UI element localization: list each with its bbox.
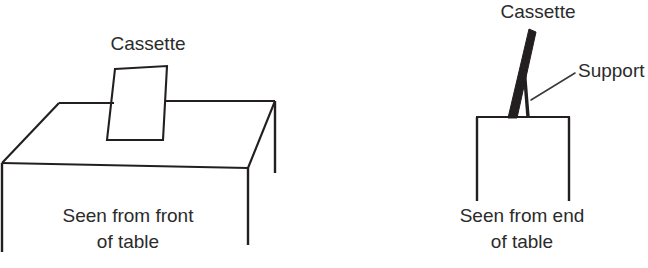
table-top-left-edge — [2, 103, 59, 163]
figure-svg: Cassette Seen from front of table Casset… — [0, 0, 648, 268]
end-view-caption-line2: of table — [491, 231, 553, 252]
front-view-caption-line1: Seen from front — [63, 205, 195, 226]
support-leader-line — [531, 73, 575, 100]
front-view-cassette-label: Cassette — [111, 33, 186, 54]
table-top-front-edge — [2, 163, 248, 168]
support-strut — [524, 67, 528, 117]
end-view-cassette-label: Cassette — [501, 1, 576, 22]
end-view-caption-line1: Seen from end — [460, 205, 585, 226]
figure-container: Cassette Seen from front of table Casset… — [0, 0, 648, 268]
cassette-angled-bar — [508, 29, 536, 118]
cassette-rectangle — [107, 66, 167, 140]
end-view-group: Cassette Support Seen from end of table — [460, 1, 646, 252]
end-view-support-label: Support — [578, 60, 645, 81]
table-top-right-edge — [248, 101, 275, 168]
front-view-group: Cassette Seen from front of table — [2, 33, 275, 252]
front-view-caption-line2: of table — [97, 231, 159, 252]
